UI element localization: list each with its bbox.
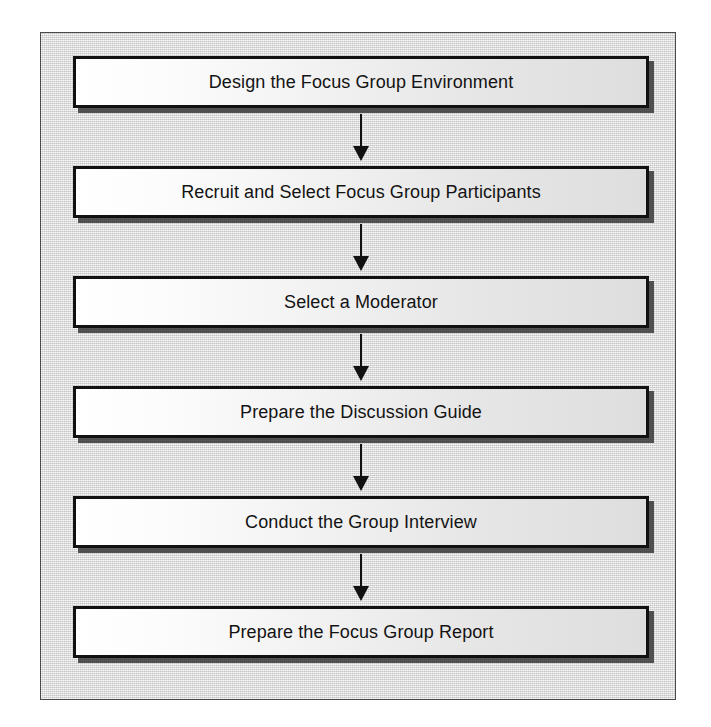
arrow-stem [360, 444, 362, 478]
flowchart-page: Design the Focus Group Environment Recru… [0, 0, 711, 727]
flowchart-node-label: Recruit and Select Focus Group Participa… [181, 183, 540, 201]
flowchart-node-label: Prepare the Focus Group Report [228, 623, 493, 641]
arrow-stem [360, 224, 362, 258]
flowchart-connector-arrow-5 [73, 548, 649, 606]
flowchart-node-step-2[interactable]: Recruit and Select Focus Group Participa… [73, 166, 649, 218]
arrow-stem [360, 114, 362, 148]
arrow-down-icon [353, 256, 369, 271]
flowchart-node-step-3[interactable]: Select a Moderator [73, 276, 649, 328]
flowchart-connector-arrow-1 [73, 108, 649, 166]
flowchart-node-step-4[interactable]: Prepare the Discussion Guide [73, 386, 649, 438]
flowchart-node-step-6[interactable]: Prepare the Focus Group Report [73, 606, 649, 658]
flowchart-node-step-1[interactable]: Design the Focus Group Environment [73, 56, 649, 108]
arrow-down-icon [353, 586, 369, 601]
flowchart-connector-arrow-2 [73, 218, 649, 276]
arrow-down-icon [353, 476, 369, 491]
flowchart-node-label: Prepare the Discussion Guide [240, 403, 482, 421]
flowchart-flow: Design the Focus Group Environment Recru… [73, 56, 649, 658]
arrow-down-icon [353, 146, 369, 161]
flowchart-node-label: Select a Moderator [284, 293, 438, 311]
arrow-stem [360, 554, 362, 588]
arrow-down-icon [353, 366, 369, 381]
flowchart-connector-arrow-3 [73, 328, 649, 386]
flowchart-node-label: Conduct the Group Interview [245, 513, 477, 531]
flowchart-node-label: Design the Focus Group Environment [209, 73, 514, 91]
arrow-stem [360, 334, 362, 368]
flowchart-panel: Design the Focus Group Environment Recru… [40, 32, 676, 700]
flowchart-node-step-5[interactable]: Conduct the Group Interview [73, 496, 649, 548]
flowchart-connector-arrow-4 [73, 438, 649, 496]
